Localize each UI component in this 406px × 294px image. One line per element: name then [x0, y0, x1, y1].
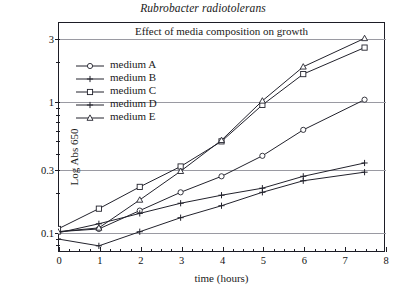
data-point-plus — [87, 75, 93, 81]
data-point-circle — [362, 97, 367, 102]
series-medium-b — [58, 169, 368, 249]
x-tick-label: 5 — [261, 255, 266, 266]
x-tick-label: 4 — [220, 255, 225, 266]
series-line — [58, 163, 365, 233]
data-point-plus — [96, 243, 102, 249]
data-point-square — [87, 89, 92, 94]
data-point-triangle — [300, 64, 306, 69]
legend-marker-plus-icon — [74, 71, 106, 83]
legend-item-medium-c[interactable]: medium C — [74, 83, 157, 96]
x-axis-title: time (hours) — [58, 272, 385, 284]
legend-item-label: medium C — [106, 84, 156, 96]
data-point-triangle — [137, 197, 143, 202]
data-point-plus — [218, 192, 224, 198]
legend-marker-square-icon — [74, 84, 106, 96]
data-point-circle — [178, 190, 183, 195]
data-point-plus — [259, 185, 265, 191]
legend-item-medium-d[interactable]: medium D — [74, 96, 157, 109]
data-point-circle — [301, 127, 306, 132]
x-tick-label: 6 — [302, 255, 307, 266]
x-tick-label: 7 — [342, 255, 347, 266]
data-point-circle — [260, 153, 265, 158]
legend-marker-triangle-icon — [74, 110, 106, 122]
x-tick-label: 3 — [179, 255, 184, 266]
series-line — [58, 172, 365, 246]
data-point-plus — [178, 200, 184, 206]
legend-item-label: medium D — [106, 97, 157, 109]
legend-item-label: medium E — [106, 110, 156, 122]
figure-species-title: Rubrobacter radiotolerans — [0, 2, 406, 14]
legend-item-label: medium B — [106, 71, 156, 83]
data-point-plus — [137, 229, 143, 235]
legend-item-label: medium A — [106, 58, 156, 70]
x-tick-label: 2 — [138, 255, 143, 266]
chart-figure: Rubrobacter radiotolerans 0.10.313 01234… — [0, 0, 406, 294]
legend-item-medium-a[interactable]: medium A — [74, 57, 157, 70]
x-tick-label: 0 — [56, 255, 61, 266]
data-point-plus — [361, 160, 367, 166]
data-point-circle — [87, 63, 92, 68]
x-tick-label: 8 — [383, 255, 388, 266]
data-point-plus — [178, 215, 184, 221]
data-point-plus — [218, 203, 224, 209]
legend-item-medium-e[interactable]: medium E — [74, 109, 157, 122]
data-point-plus — [300, 173, 306, 179]
legend-item-medium-b[interactable]: medium B — [74, 70, 157, 83]
data-point-plus — [87, 101, 93, 107]
data-point-triangle — [362, 35, 368, 40]
chart-legend: medium Amedium Bmedium Cmedium Dmedium E — [74, 57, 157, 122]
data-point-square — [362, 45, 367, 50]
data-point-plus — [361, 169, 367, 175]
data-point-square — [96, 206, 101, 211]
data-point-square — [301, 71, 306, 76]
legend-marker-circle-icon — [74, 58, 106, 70]
legend-marker-plus-icon — [74, 97, 106, 109]
x-tick-label: 1 — [97, 255, 102, 266]
data-point-circle — [219, 174, 224, 179]
data-point-plus — [58, 236, 61, 242]
x-tick-mark — [386, 247, 387, 252]
data-point-square — [137, 184, 142, 189]
